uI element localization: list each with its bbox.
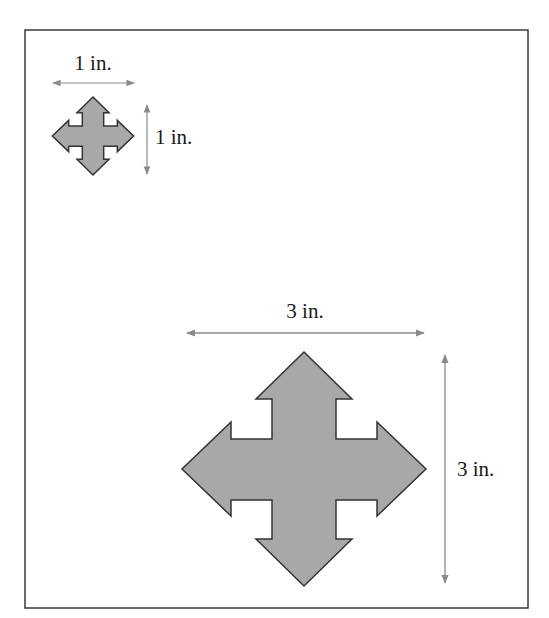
four-way-arrow-icon — [182, 352, 426, 586]
small-arrow-group: 1 in. 1 in. — [52, 51, 192, 175]
scaling-diagram: 1 in. 1 in. 3 in. 3 in. — [0, 0, 549, 618]
large-width-label: 3 in. — [286, 299, 323, 323]
small-width-label: 1 in. — [74, 51, 111, 75]
four-way-arrow-icon — [52, 97, 133, 175]
small-height-label: 1 in. — [155, 125, 192, 149]
large-height-label: 3 in. — [457, 457, 494, 481]
large-arrow-group: 3 in. 3 in. — [182, 299, 494, 586]
